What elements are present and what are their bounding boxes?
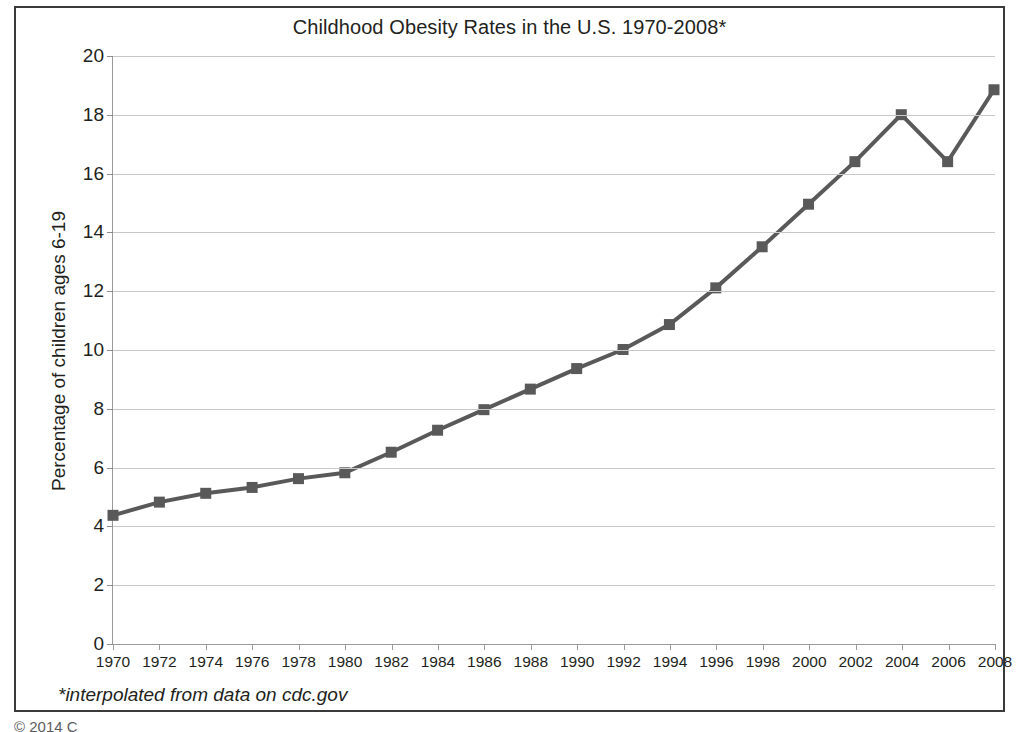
chart-figure: Childhood Obesity Rates in the U.S. 1970… <box>14 6 1005 712</box>
y-tick-mark <box>107 291 113 292</box>
y-tick-label: 10 <box>83 339 104 361</box>
x-tick-mark <box>577 644 578 650</box>
chart-title: Childhood Obesity Rates in the U.S. 1970… <box>16 16 1003 39</box>
y-tick-mark <box>107 526 113 527</box>
gridline <box>113 174 995 175</box>
x-tick-label: 1988 <box>514 653 548 671</box>
gridline <box>113 526 995 527</box>
x-tick-label: 1984 <box>421 653 455 671</box>
x-tick-label: 2000 <box>792 653 826 671</box>
y-tick-mark <box>107 409 113 410</box>
x-tick-mark <box>345 644 346 650</box>
data-point-marker <box>339 467 350 478</box>
data-point-marker <box>757 241 768 252</box>
gridline <box>113 350 995 351</box>
x-tick-label: 1974 <box>189 653 223 671</box>
plot-area: 0246810121416182019701972197419761978198… <box>112 56 995 645</box>
x-tick-mark <box>159 644 160 650</box>
y-tick-mark <box>107 174 113 175</box>
x-tick-mark <box>716 644 717 650</box>
data-point-marker <box>293 473 304 484</box>
y-tick-label: 2 <box>93 574 104 596</box>
x-tick-mark <box>484 644 485 650</box>
y-tick-label: 4 <box>93 515 104 537</box>
chart-footnote: *interpolated from data on cdc.gov <box>58 684 347 706</box>
x-tick-label: 1994 <box>653 653 687 671</box>
x-tick-label: 1980 <box>328 653 362 671</box>
x-tick-mark <box>392 644 393 650</box>
x-tick-label: 1982 <box>374 653 408 671</box>
y-tick-label: 6 <box>93 456 104 478</box>
y-tick-label: 12 <box>83 280 104 302</box>
gridline <box>113 232 995 233</box>
gridline <box>113 585 995 586</box>
x-tick-mark <box>670 644 671 650</box>
data-point-marker <box>571 363 582 374</box>
y-tick-label: 0 <box>93 633 104 655</box>
x-tick-mark <box>809 644 810 650</box>
data-point-marker <box>108 510 119 521</box>
gridline <box>113 115 995 116</box>
x-tick-label: 1996 <box>699 653 733 671</box>
x-tick-mark <box>763 644 764 650</box>
x-tick-label: 1998 <box>746 653 780 671</box>
data-point-marker <box>200 488 211 499</box>
data-point-marker <box>664 319 675 330</box>
y-tick-label: 16 <box>83 162 104 184</box>
y-axis-title: Percentage of children ages 6-19 <box>46 56 72 645</box>
data-point-marker <box>525 384 536 395</box>
data-point-marker <box>432 425 443 436</box>
x-tick-mark <box>252 644 253 650</box>
y-tick-mark <box>107 56 113 57</box>
x-tick-mark <box>902 644 903 650</box>
y-tick-mark <box>107 585 113 586</box>
x-tick-mark <box>438 644 439 650</box>
y-tick-label: 14 <box>83 221 104 243</box>
x-tick-mark <box>624 644 625 650</box>
data-point-marker <box>803 199 814 210</box>
y-tick-mark <box>107 232 113 233</box>
x-tick-mark <box>113 644 114 650</box>
y-tick-label: 18 <box>83 103 104 125</box>
y-axis-title-label: Percentage of children ages 6-19 <box>48 211 70 491</box>
y-tick-mark <box>107 115 113 116</box>
x-tick-label: 1976 <box>235 653 269 671</box>
y-tick-mark <box>107 468 113 469</box>
data-point-marker <box>247 482 258 493</box>
series-line <box>113 90 994 516</box>
gridline <box>113 409 995 410</box>
data-point-marker <box>386 447 397 458</box>
x-tick-mark <box>949 644 950 650</box>
x-tick-mark <box>856 644 857 650</box>
x-tick-mark <box>531 644 532 650</box>
y-tick-mark <box>107 350 113 351</box>
x-tick-label: 1986 <box>467 653 501 671</box>
x-tick-label: 1972 <box>142 653 176 671</box>
x-tick-label: 2006 <box>931 653 965 671</box>
y-tick-label: 20 <box>83 45 104 67</box>
y-tick-label: 8 <box>93 397 104 419</box>
gridline <box>113 56 995 57</box>
x-tick-label: 1990 <box>560 653 594 671</box>
x-tick-label: 2008 <box>978 653 1012 671</box>
x-tick-label: 1978 <box>281 653 315 671</box>
data-point-marker <box>989 84 1000 95</box>
x-tick-label: 1992 <box>606 653 640 671</box>
data-point-marker <box>942 156 953 167</box>
x-tick-label: 2002 <box>838 653 872 671</box>
copyright-notice: © 2014 C <box>14 718 78 732</box>
x-tick-label: 1970 <box>96 653 130 671</box>
x-tick-mark <box>299 644 300 650</box>
x-tick-mark <box>206 644 207 650</box>
x-tick-label: 2004 <box>885 653 919 671</box>
data-point-marker <box>849 156 860 167</box>
x-tick-mark <box>995 644 996 650</box>
gridline <box>113 468 995 469</box>
data-point-marker <box>154 497 165 508</box>
gridline <box>113 291 995 292</box>
